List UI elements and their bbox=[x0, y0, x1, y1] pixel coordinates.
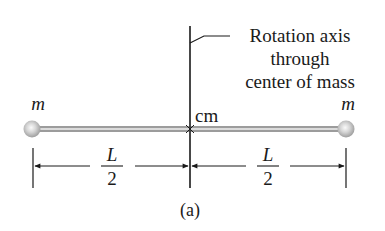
axis-label-line-2: through bbox=[270, 48, 330, 69]
right-fraction-denominator: 2 bbox=[263, 168, 273, 189]
axis-leader-line bbox=[190, 36, 230, 43]
left-mass-ball bbox=[24, 121, 41, 138]
right-half-length-label: L 2 bbox=[257, 144, 279, 189]
right-mass-label: m bbox=[341, 93, 355, 114]
figure: Rotation axis through center of mass cm … bbox=[0, 0, 385, 231]
left-fraction-denominator: 2 bbox=[107, 168, 117, 189]
figure-caption: (a) bbox=[180, 200, 200, 221]
center-of-mass-label: cm bbox=[195, 105, 218, 126]
axis-label-line-3: center of mass bbox=[245, 71, 355, 92]
axis-label-line-1: Rotation axis bbox=[250, 25, 351, 46]
dumbbell-diagram: Rotation axis through center of mass cm … bbox=[0, 0, 385, 231]
right-mass-ball bbox=[338, 121, 355, 138]
left-fraction-numerator: L bbox=[106, 144, 118, 165]
right-fraction-numerator: L bbox=[262, 144, 274, 165]
left-mass-label: m bbox=[31, 93, 45, 114]
left-half-length-label: L 2 bbox=[101, 144, 123, 189]
